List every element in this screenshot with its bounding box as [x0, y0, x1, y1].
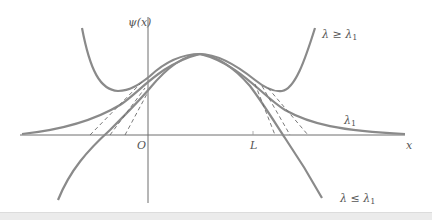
label-lambda-less-sub: 1 — [370, 197, 375, 206]
label-lambda-greater: λ ≥ λ1 — [322, 29, 357, 42]
L-label: L — [250, 140, 257, 151]
label-lambda-less-main: λ ≤ λ — [340, 192, 370, 205]
label-lambda-1: λ1 — [344, 115, 356, 128]
label-lambda-greater-main: λ ≥ λ — [322, 28, 352, 41]
label-lambda-1-sub: 1 — [351, 119, 356, 128]
curve-lambda-greater — [82, 28, 315, 91]
wavefunction-diagram — [0, 0, 432, 220]
label-lambda-greater-sub: 1 — [352, 33, 357, 42]
label-lambda-less: λ ≤ λ1 — [340, 193, 375, 206]
x-axis-label: x — [406, 140, 412, 151]
y-axis-label: ψ(x) — [128, 17, 151, 28]
origin-label: O — [137, 140, 146, 151]
label-lambda-1-main: λ — [344, 114, 351, 127]
bottom-strip — [0, 212, 432, 220]
